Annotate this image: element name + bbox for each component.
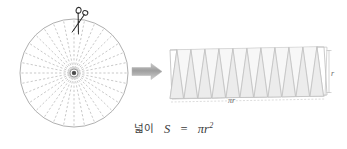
caption-equals: = xyxy=(180,122,187,136)
caption-exponent: 2 xyxy=(209,121,213,130)
caption-symbol-S: S xyxy=(164,122,170,136)
area-formula-caption: 넓이 S = πr2 xyxy=(0,120,347,137)
rearranged-sectors xyxy=(170,47,332,102)
height-length-label: r xyxy=(331,69,334,78)
caption-korean-prefix: 넓이 xyxy=(134,122,154,134)
base-length-label: πr xyxy=(228,96,235,105)
figure-canvas: πr r 넓이 S = πr2 xyxy=(0,0,347,149)
circle-center-dot xyxy=(72,71,76,75)
transform-arrow xyxy=(132,64,162,80)
sectored-circle xyxy=(20,19,128,127)
base-measure xyxy=(171,99,325,102)
scissors-icon xyxy=(70,7,89,35)
caption-expression: πr xyxy=(198,122,210,136)
